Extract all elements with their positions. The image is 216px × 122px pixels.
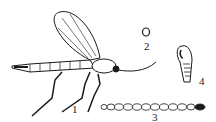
label-egg: 2 <box>144 41 150 52</box>
label-pupa: 4 <box>199 76 205 87</box>
egg-drawing <box>143 28 150 36</box>
larva-drawing <box>101 104 205 110</box>
pupa-drawing <box>177 46 192 82</box>
adult-insect-drawing <box>12 12 156 116</box>
label-larva: 3 <box>152 112 158 122</box>
insect-life-cycle-figure: 1 2 3 4 <box>0 0 216 122</box>
label-adult: 1 <box>72 104 78 115</box>
